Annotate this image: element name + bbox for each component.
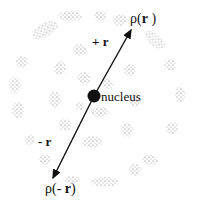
- rho-plus-r-label: ρ(r ): [130, 12, 156, 26]
- rho-minus-r-label: ρ(- r): [45, 182, 76, 196]
- diagram-canvas: [0, 0, 197, 200]
- minus-r-label: - r: [38, 135, 51, 148]
- nucleus-dot: [88, 90, 101, 103]
- electron-density-diagram: ρ(r ) + r nucleus - r ρ(- r): [0, 0, 197, 200]
- nucleus-label: nucleus: [101, 90, 141, 103]
- plus-r-label: + r: [92, 35, 108, 48]
